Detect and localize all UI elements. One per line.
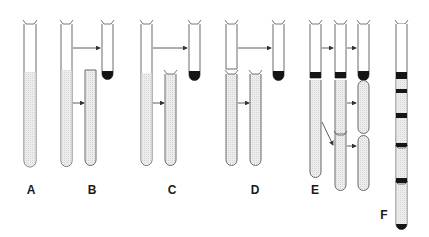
- pole-cap-icon: [23, 20, 37, 24]
- panel-f: [395, 20, 408, 230]
- pole-cap-icon: [140, 20, 153, 24]
- shaded-region: [25, 72, 36, 167]
- tube-middle: [358, 81, 369, 134]
- panel-label-d: D: [251, 183, 260, 197]
- pole-cap-icon: [249, 70, 262, 74]
- pole-cap-icon: [357, 20, 370, 24]
- panel-a: [23, 20, 37, 167]
- pole-cap-icon: [101, 20, 114, 24]
- pole-cap-icon: [164, 70, 177, 74]
- black-band: [396, 143, 407, 147]
- mother-tube-upper: [226, 24, 237, 69]
- panel-label-b: B: [88, 183, 97, 197]
- pole-cap-icon: [60, 20, 73, 24]
- black-band: [396, 89, 407, 93]
- arrow-icon: [322, 122, 333, 145]
- black-band: [396, 72, 407, 79]
- panel-label-a: A: [27, 183, 36, 197]
- shaded-region: [142, 73, 152, 165]
- tube-lower: [358, 136, 369, 191]
- panel-label-c: C: [168, 183, 177, 197]
- black-tip-band: [396, 224, 407, 230]
- panel-c: [140, 20, 201, 166]
- tube-upper: [335, 24, 346, 78]
- black-band: [396, 178, 407, 183]
- tube-upper: [310, 24, 321, 78]
- tube-middle: [335, 80, 346, 134]
- mother-tube-lower: [226, 74, 237, 166]
- black-band: [396, 113, 407, 118]
- pole-cap-icon: [188, 20, 201, 24]
- pole-cap-icon: [334, 20, 347, 24]
- pole-cap-icon: [309, 20, 322, 24]
- black-band: [335, 72, 346, 78]
- panel-d: [225, 20, 285, 166]
- shaded-region: [62, 70, 72, 166]
- black-band: [310, 72, 321, 78]
- tube-lower: [310, 80, 321, 178]
- pole-cap-icon: [225, 70, 238, 74]
- daughter-tube-lower: [165, 74, 176, 166]
- pole-cap-icon: [272, 20, 285, 24]
- pole-cap-icon: [225, 20, 238, 24]
- panel-label-f: F: [380, 208, 387, 222]
- daughter-tube-lower: [85, 70, 96, 166]
- panel-e: [309, 20, 370, 191]
- panel-b: [60, 20, 114, 167]
- division-diagram: [0, 0, 429, 237]
- tube-lower: [335, 134, 346, 191]
- panel-label-e: E: [311, 183, 319, 197]
- daughter-tube-lower: [250, 74, 261, 166]
- pole-cap-icon: [395, 20, 408, 24]
- shaded-segment: [397, 148, 407, 226]
